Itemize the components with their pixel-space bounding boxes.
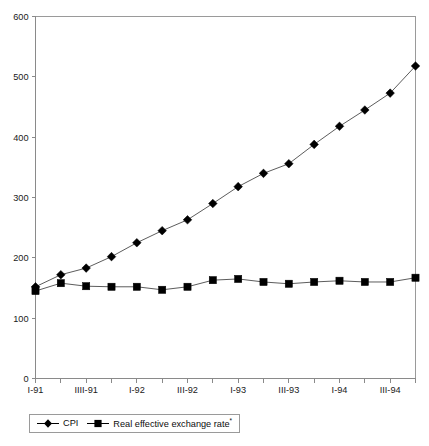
data-point-diamond <box>361 106 370 115</box>
y-axis-tick-label: 300 <box>13 193 28 203</box>
legend-item-cpi: CPI <box>37 418 78 429</box>
y-axis-tick-label: 400 <box>13 133 28 143</box>
y-axis-tick-label: 200 <box>13 253 28 263</box>
legend-footnote-marker: * <box>230 417 233 424</box>
data-point-square <box>311 278 318 285</box>
data-point-square <box>260 278 267 285</box>
y-axis-ticks <box>32 17 36 379</box>
line-chart: 0100200300400500600 I-91IIII-91I-92III-9… <box>0 0 429 446</box>
x-axis-tick-label: I-94 <box>332 385 348 395</box>
data-point-diamond <box>183 216 192 225</box>
y-axis-tick-label: 0 <box>23 374 28 384</box>
series-polyline <box>36 278 416 291</box>
data-point-diamond <box>57 270 66 279</box>
x-axis-tick-label: III-94 <box>380 385 401 395</box>
x-axis-tick-label: I-93 <box>230 385 246 395</box>
data-point-diamond <box>310 140 319 149</box>
legend-label-real-effective-exchange-rate: Real effective exchange rate* <box>113 418 232 429</box>
data-point-square <box>336 277 343 284</box>
data-point-square <box>184 283 191 290</box>
data-point-square <box>235 275 242 282</box>
data-point-diamond <box>82 264 91 273</box>
x-axis-tick-label: IIII-91 <box>74 385 98 395</box>
data-point-square <box>361 278 368 285</box>
data-point-diamond <box>335 122 344 131</box>
data-point-diamond <box>234 182 243 191</box>
x-axis-tick-label: I-91 <box>28 385 44 395</box>
data-point-square <box>83 283 90 290</box>
data-point-square <box>57 280 64 287</box>
plot-frame <box>36 17 416 379</box>
data-point-square <box>32 287 39 294</box>
series-polyline <box>36 66 416 287</box>
data-point-square <box>159 286 166 293</box>
chart-container: 0100200300400500600 I-91IIII-91I-92III-9… <box>0 0 429 446</box>
data-series <box>31 62 420 295</box>
series-real-effective-exchange-rate <box>32 274 419 294</box>
data-point-diamond <box>133 238 142 247</box>
data-point-square <box>285 280 292 287</box>
data-point-square <box>108 283 115 290</box>
x-axis-labels: I-91IIII-91I-92III-92I-93III-93I-94III-9… <box>28 385 401 395</box>
data-point-diamond <box>209 199 218 208</box>
data-point-diamond <box>259 169 268 178</box>
y-axis-tick-label: 100 <box>13 314 28 324</box>
data-point-diamond <box>107 252 116 261</box>
chart-legend: CPI Real effective exchange rate* <box>29 414 240 433</box>
data-point-diamond <box>158 226 167 235</box>
y-axis-labels: 0100200300400500600 <box>13 12 28 384</box>
y-axis-tick-label: 600 <box>13 12 28 22</box>
x-axis-tick-label: III-93 <box>278 385 299 395</box>
series-cpi <box>31 62 420 291</box>
data-point-diamond <box>285 159 294 168</box>
y-axis-tick-label: 500 <box>13 72 28 82</box>
legend-item-real-effective-exchange-rate: Real effective exchange rate* <box>87 418 232 429</box>
legend-label-cpi: CPI <box>63 419 78 428</box>
data-point-square <box>412 274 419 281</box>
data-point-square <box>133 283 140 290</box>
x-axis-ticks <box>36 379 416 383</box>
diamond-marker-icon <box>37 418 59 429</box>
x-axis-tick-label: III-92 <box>177 385 198 395</box>
x-axis-tick-label: I-92 <box>129 385 145 395</box>
data-point-square <box>209 277 216 284</box>
square-marker-icon <box>87 418 109 429</box>
data-point-square <box>387 278 394 285</box>
